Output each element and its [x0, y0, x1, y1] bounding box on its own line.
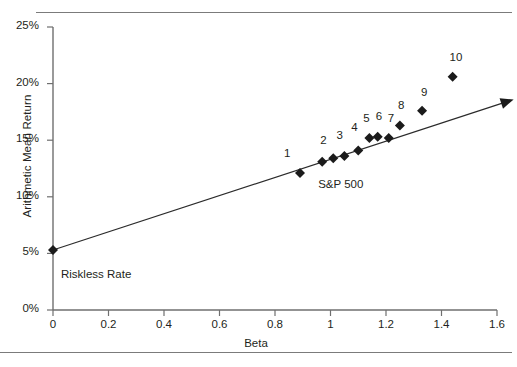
x-tick-label: 0.4 [144, 318, 184, 330]
data-point-label: 3 [336, 129, 342, 141]
data-point-label: 6 [376, 110, 382, 122]
data-point-label: Riskless Rate [61, 268, 131, 280]
data-point-label: 8 [398, 99, 404, 111]
y-tick-label: 5% [0, 245, 39, 257]
y-tick-label: 0% [0, 302, 39, 314]
data-marker [328, 153, 338, 163]
x-tick-label: 1.6 [477, 318, 517, 330]
y-tick-label: 15% [0, 132, 39, 144]
data-point-label: 2 [320, 134, 326, 146]
security-market-line [53, 103, 503, 250]
y-tick-marks [47, 27, 53, 310]
data-marker [364, 133, 374, 143]
data-marker [395, 120, 405, 130]
data-point-label: 1 [284, 147, 290, 159]
x-tick-label: 1.4 [422, 318, 462, 330]
x-axis-label: Beta [0, 337, 512, 349]
y-tick-label: 25% [0, 19, 39, 31]
data-marker [353, 145, 363, 155]
sml-arrowhead [500, 98, 514, 108]
x-tick-label: 0.8 [255, 318, 295, 330]
data-point-label: 4 [351, 121, 357, 133]
x-tick-label: 1.2 [366, 318, 406, 330]
data-marker [317, 157, 327, 167]
data-marker [417, 106, 427, 116]
data-point-label: S&P 500 [318, 178, 363, 190]
data-point-label: 7 [388, 112, 394, 124]
x-tick-label: 0 [33, 318, 73, 330]
x-tick-label: 0.6 [200, 318, 240, 330]
data-point-label: 10 [450, 51, 463, 63]
y-tick-label: 20% [0, 76, 39, 88]
x-tick-label: 1 [311, 318, 351, 330]
data-marker [373, 132, 383, 142]
data-markers [48, 72, 458, 255]
data-marker [339, 151, 349, 161]
data-point-label: 9 [421, 86, 427, 98]
data-marker [295, 168, 305, 178]
data-marker [448, 72, 458, 82]
sml-line-group [53, 98, 514, 250]
x-tick-label: 0.2 [89, 318, 129, 330]
x-tick-marks [53, 310, 497, 316]
y-tick-label: 10% [0, 189, 39, 201]
data-point-label: 5 [363, 112, 369, 124]
